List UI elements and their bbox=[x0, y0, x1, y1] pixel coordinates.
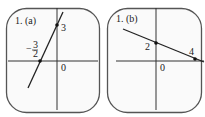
panel-b-x-intercept-point bbox=[193, 57, 197, 61]
panel-b-origin-label: 0 bbox=[160, 62, 165, 73]
panel-b-y-intercept-point bbox=[154, 41, 158, 45]
panel-a-origin-label: 0 bbox=[61, 62, 66, 73]
panel-a-x-intercept-point bbox=[38, 59, 42, 63]
panel-a-y-intercept-point bbox=[55, 23, 59, 27]
panel-a-title: 1. (a) bbox=[15, 15, 36, 27]
panel-a-minus-sign: − bbox=[26, 43, 32, 54]
panel-b-y-intercept-label: 2 bbox=[145, 41, 150, 52]
panel-b-title: 1. (b) bbox=[116, 13, 138, 25]
panel-a-y-intercept-label: 3 bbox=[61, 22, 66, 33]
panel-a-frac-den: 2 bbox=[33, 48, 38, 59]
panel-b-x-intercept-label: 4 bbox=[189, 46, 194, 57]
diagram-canvas: 1. (a) 3 0 − 3 2 1. (b) 2 4 0 bbox=[0, 0, 205, 117]
